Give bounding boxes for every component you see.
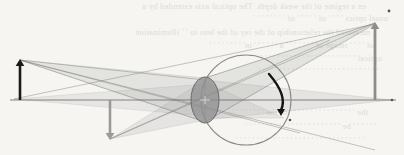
ray-optics-figure: en a regime of the weak depth. The optic… — [0, 0, 404, 155]
image-tip-marker — [388, 10, 391, 13]
axis-right-marker — [391, 99, 394, 102]
curved-arrow-marker — [289, 119, 292, 122]
ray-diagram-svg — [0, 0, 404, 155]
curved-ray-arrow-head — [277, 109, 285, 116]
secondary-object-arrow-head — [106, 133, 115, 140]
lens-group — [191, 77, 219, 123]
